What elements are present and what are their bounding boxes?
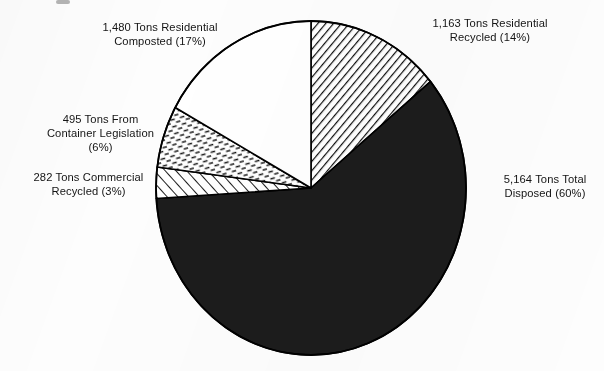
slice-label-commercial-recycled: 282 Tons Commercial Recycled (3%)	[6, 170, 171, 198]
slice-label-residential-recycled: 1,163 Tons Residential Recycled (14%)	[400, 16, 580, 44]
slice-label-container-legislation: 495 Tons From Container Legislation (6%)	[28, 112, 173, 155]
pie-chart-figure: 1,163 Tons Residential Recycled (14%) 1,…	[0, 0, 604, 371]
slice-label-total-disposed: 5,164 Tons Total Disposed (60%)	[486, 172, 604, 200]
pie-slices-group	[156, 21, 466, 355]
scan-smudge-artifact	[56, 0, 70, 4]
slice-label-residential-composted: 1,480 Tons Residential Composted (17%)	[60, 20, 260, 48]
